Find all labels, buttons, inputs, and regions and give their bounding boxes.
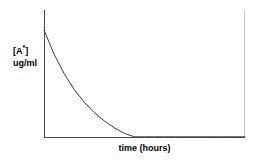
y-axis-label-bracket-close: ] <box>25 46 28 56</box>
y-axis-label-units: ug/ml <box>13 58 37 69</box>
x-axis-label: time (hours) <box>44 143 245 154</box>
y-axis-label: [A*] ug/ml <box>13 46 37 69</box>
chart-figure: [A*] ug/ml time (hours) <box>0 0 259 168</box>
y-axis-label-bracket-open: [A <box>13 46 23 56</box>
y-axis-label-line1: [A*] <box>13 46 37 57</box>
